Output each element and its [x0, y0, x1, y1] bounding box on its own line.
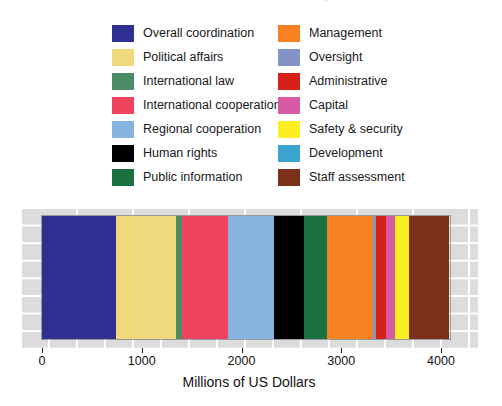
x-axis-tick-label: 0 — [39, 354, 46, 368]
legend-item-label: Political affairs — [143, 51, 223, 64]
legend-swatch-icon — [112, 145, 134, 162]
legend-swatch-icon — [278, 97, 300, 114]
legend-item[interactable]: Management — [278, 22, 405, 44]
legend-item[interactable]: Development — [278, 142, 405, 164]
legend-item-label: Safety & security — [309, 123, 403, 136]
chart-legend: Overall coordinationPolitical affairsInt… — [0, 22, 502, 192]
bar-segment[interactable] — [228, 216, 275, 339]
x-axis: Millions of US Dollars 01000200030004000 — [20, 348, 478, 406]
legend-item[interactable]: Public information — [112, 166, 281, 188]
running-header-text: UN SYSTEM BUDGET FOR THE BIENNIUM, MILLI… — [124, 0, 378, 2]
legend-item-label: Human rights — [143, 147, 217, 160]
legend-column-left: Overall coordinationPolitical affairsInt… — [112, 22, 281, 190]
legend-item-label: Regional cooperation — [143, 123, 261, 136]
legend-item-label: International cooperation — [143, 99, 281, 112]
legend-item[interactable]: Overall coordination — [112, 22, 281, 44]
legend-item-label: Staff assessment — [309, 171, 405, 184]
legend-item-label: Public information — [143, 171, 242, 184]
x-axis-tick — [42, 348, 43, 353]
x-axis-tick-label: 4000 — [427, 354, 455, 368]
legend-swatch-icon — [112, 97, 134, 114]
x-axis-tick — [142, 348, 143, 353]
legend-item-label: Administrative — [309, 75, 388, 88]
bar-segment[interactable] — [304, 216, 327, 339]
legend-item-label: International law — [143, 75, 234, 88]
bar-segment[interactable] — [409, 216, 449, 339]
legend-item[interactable]: Capital — [278, 94, 405, 116]
legend-swatch-icon — [112, 49, 134, 66]
x-axis-tick — [441, 348, 442, 353]
chart-plot-area — [20, 207, 478, 348]
legend-item[interactable]: Regional cooperation — [112, 118, 281, 140]
legend-swatch-icon — [112, 121, 134, 138]
legend-swatch-icon — [112, 169, 134, 186]
x-axis-tick-label: 1000 — [128, 354, 156, 368]
x-axis-tick — [242, 348, 243, 353]
legend-swatch-icon — [278, 169, 300, 186]
legend-swatch-icon — [112, 73, 134, 90]
legend-item[interactable]: Staff assessment — [278, 166, 405, 188]
legend-swatch-icon — [278, 145, 300, 162]
bar-segment[interactable] — [42, 216, 116, 339]
legend-item-label: Development — [309, 147, 383, 160]
bar-segment[interactable] — [376, 216, 386, 339]
legend-item[interactable]: International cooperation — [112, 94, 281, 116]
legend-item-label: Oversight — [309, 51, 363, 64]
bar-segment[interactable] — [182, 216, 228, 339]
legend-column-right: ManagementOversightAdministrativeCapital… — [278, 22, 405, 190]
legend-item-label: Management — [309, 27, 382, 40]
legend-swatch-icon — [278, 121, 300, 138]
legend-item[interactable]: Human rights — [112, 142, 281, 164]
x-axis-tick — [341, 348, 342, 353]
legend-item[interactable]: Political affairs — [112, 46, 281, 68]
running-header: UN SYSTEM BUDGET FOR THE BIENNIUM, MILLI… — [0, 0, 502, 7]
x-axis-title: Millions of US Dollars — [20, 374, 478, 390]
legend-swatch-icon — [278, 25, 300, 42]
legend-swatch-icon — [112, 25, 134, 42]
x-axis-tick-label: 3000 — [327, 354, 355, 368]
legend-item-label: Capital — [309, 99, 348, 112]
legend-swatch-icon — [278, 49, 300, 66]
bar-segment[interactable] — [274, 216, 304, 339]
bar-segment[interactable] — [386, 216, 395, 339]
bar-segment[interactable] — [116, 216, 176, 339]
bar-segment[interactable] — [395, 216, 409, 339]
legend-swatch-icon — [278, 73, 300, 90]
legend-item-label: Overall coordination — [143, 27, 254, 40]
legend-item[interactable]: International law — [112, 70, 281, 92]
stacked-bar-wrapper — [42, 216, 450, 339]
x-axis-tick-label: 2000 — [228, 354, 256, 368]
legend-item[interactable]: Administrative — [278, 70, 405, 92]
bar-segment[interactable] — [327, 216, 373, 339]
legend-item[interactable]: Safety & security — [278, 118, 405, 140]
stacked-bar — [42, 216, 450, 339]
legend-item[interactable]: Oversight — [278, 46, 405, 68]
